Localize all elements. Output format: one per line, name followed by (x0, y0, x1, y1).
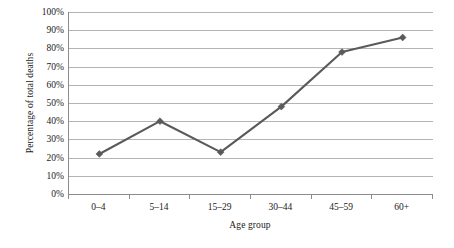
y-axis-tick-label: 80% (34, 43, 64, 53)
series-markers (96, 34, 406, 157)
y-axis-tick-label: 40% (34, 116, 64, 126)
x-axis-tick-label: 15–29 (185, 201, 255, 214)
x-axis-tick (432, 194, 433, 199)
x-axis-tick-label: 5–14 (124, 201, 194, 214)
x-axis-tick-label: 0–4 (63, 201, 133, 214)
x-axis-tick-labels: 0–45–1415–2930–4445–5960+ (68, 201, 432, 215)
x-axis-tick-label: 45–59 (306, 201, 376, 214)
x-axis-tick (129, 194, 130, 199)
y-axis-tick-label: 90% (34, 25, 64, 35)
x-axis-title: Age group (68, 219, 432, 232)
data-series-line (69, 12, 433, 194)
plot-area (68, 12, 433, 195)
y-axis-tick-label: 20% (34, 153, 64, 163)
y-axis-tick-label: 100% (34, 7, 64, 17)
y-axis-tick-label: 30% (34, 134, 64, 144)
x-axis-tick (250, 194, 251, 199)
x-axis-tick (68, 194, 69, 199)
x-axis-tick (189, 194, 190, 199)
x-axis-tick (311, 194, 312, 199)
y-axis-tick-label: 50% (34, 98, 64, 108)
y-axis-tick-label: 60% (34, 80, 64, 90)
x-axis-ticks (68, 194, 433, 199)
y-axis-tick-label: 0% (34, 189, 64, 199)
y-axis-tick-labels: 100%90%80%70%60%50%40%30%20%10%0% (34, 12, 64, 194)
data-point-marker (399, 34, 406, 41)
x-axis-tick-label: 30–44 (245, 201, 315, 214)
x-axis-tick (371, 194, 372, 199)
y-axis-tick-label: 10% (34, 171, 64, 181)
y-axis-tick-label: 70% (34, 62, 64, 72)
line-chart: Percentage of total deaths 100%90%80%70%… (0, 0, 454, 248)
series-polyline (99, 37, 402, 153)
x-axis-tick-label: 60+ (367, 201, 437, 214)
